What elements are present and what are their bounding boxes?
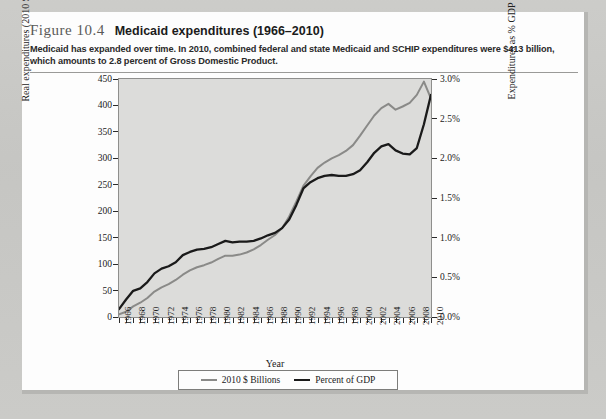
x-axis-tick-label: 2000 bbox=[364, 307, 374, 325]
x-axis-tick bbox=[218, 318, 219, 323]
y-axis-left-tick-label: 0 bbox=[66, 312, 112, 322]
x-axis-tick bbox=[147, 318, 148, 323]
x-axis-tick bbox=[374, 318, 375, 323]
x-axis-tick-label: 1978 bbox=[208, 307, 218, 325]
legend-item-gdp: Percent of GDP bbox=[294, 375, 375, 385]
x-axis-tick-label: 1994 bbox=[322, 307, 332, 325]
y-axis-left-tick-label: 450 bbox=[66, 74, 112, 84]
x-axis-tick-label: 1972 bbox=[166, 307, 176, 325]
x-axis-tick-label: 1982 bbox=[236, 307, 246, 325]
x-axis-tick-label: 1998 bbox=[350, 307, 360, 325]
x-axis-tick bbox=[247, 318, 248, 323]
y-axis-right-tick-label: 1.0% bbox=[440, 233, 460, 243]
legend-label-billions: 2010 $ Billions bbox=[222, 375, 281, 385]
x-axis-tick-label: 2002 bbox=[378, 307, 388, 325]
legend-swatch-gdp bbox=[294, 379, 310, 381]
y-axis-left-tick bbox=[113, 79, 118, 80]
y-axis-right-tick bbox=[432, 198, 437, 199]
y-axis-left-tick bbox=[113, 264, 118, 265]
plot-area bbox=[118, 78, 432, 318]
y-axis-left-tick-label: 200 bbox=[66, 206, 112, 216]
x-axis-tick-label: 1988 bbox=[279, 307, 289, 325]
figure-number: Figure 10.4 bbox=[30, 22, 105, 39]
x-axis-tick bbox=[289, 318, 290, 323]
x-axis-tick bbox=[403, 318, 404, 323]
figure-header: Figure 10.4 Medicaid expenditures (1966–… bbox=[30, 22, 578, 68]
y-axis-right-tick bbox=[432, 118, 437, 119]
x-axis-tick bbox=[318, 318, 319, 323]
legend-label-gdp: Percent of GDP bbox=[315, 375, 375, 385]
figure-description: Medicaid has expanded over time. In 2010… bbox=[30, 43, 578, 68]
y-axis-right-tick bbox=[432, 158, 437, 159]
series-line bbox=[119, 95, 431, 309]
y-axis-right-tick-label: 2.0% bbox=[440, 153, 460, 163]
chart-legend: 2010 $ Billions Percent of GDP bbox=[178, 370, 398, 390]
y-axis-right-tick bbox=[432, 79, 437, 80]
y-axis-left-tick-label: 300 bbox=[66, 153, 112, 163]
y-axis-left-tick bbox=[113, 317, 118, 318]
x-axis-tick-label: 1968 bbox=[137, 307, 147, 325]
y-axis-left-tick bbox=[113, 131, 118, 132]
y-axis-left-tick bbox=[113, 290, 118, 291]
x-axis-tick bbox=[431, 318, 432, 323]
x-axis-tick-label: 1974 bbox=[180, 307, 190, 325]
x-axis-title: Year bbox=[118, 358, 432, 369]
x-axis-tick bbox=[133, 318, 134, 323]
y-axis-left-tick-label: 100 bbox=[66, 259, 112, 269]
x-axis-tick-label: 1984 bbox=[251, 307, 261, 325]
y-axis-right-title: Expenditures as % GDP bbox=[506, 0, 517, 126]
x-axis-tick-label: 1986 bbox=[265, 307, 275, 325]
x-axis-tick-label: 1980 bbox=[222, 307, 232, 325]
x-axis-tick-label: 1970 bbox=[151, 307, 161, 325]
x-axis-tick-label: 1976 bbox=[194, 307, 204, 325]
y-axis-left-title: Real expenditures (2010 $ billions) bbox=[20, 0, 31, 116]
x-axis-tick bbox=[275, 318, 276, 323]
x-axis-tick bbox=[233, 318, 234, 323]
y-axis-left-tick bbox=[113, 184, 118, 185]
y-axis-right-tick-label: 0.5% bbox=[440, 272, 460, 282]
x-axis-tick bbox=[190, 318, 191, 323]
y-axis-right-tick-label: 2.5% bbox=[440, 114, 460, 124]
x-axis-tick-label: 1966 bbox=[123, 307, 133, 325]
y-axis-left-tick bbox=[113, 105, 118, 106]
y-axis-left-tick-label: 400 bbox=[66, 100, 112, 110]
x-axis-tick bbox=[346, 318, 347, 323]
y-axis-left-tick-label: 350 bbox=[66, 127, 112, 137]
x-axis-tick-label: 2006 bbox=[407, 307, 417, 325]
y-axis-left-tick-label: 150 bbox=[66, 233, 112, 243]
chart: Real expenditures (2010 $ billions) Expe… bbox=[30, 74, 578, 380]
legend-swatch-billions bbox=[201, 379, 217, 381]
y-axis-left-tick-label: 250 bbox=[66, 180, 112, 190]
x-axis-tick bbox=[119, 318, 120, 323]
x-axis-tick-label: 2008 bbox=[421, 307, 431, 325]
y-axis-right-tick-label: 3.0% bbox=[440, 74, 460, 84]
x-axis-tick bbox=[360, 318, 361, 323]
legend-item-billions: 2010 $ Billions bbox=[201, 375, 281, 385]
figure-title: Medicaid expenditures (1966–2010) bbox=[115, 24, 324, 38]
y-axis-right-tick-label: 1.5% bbox=[440, 193, 460, 203]
figure-page: Figure 10.4 Medicaid expenditures (1966–… bbox=[0, 0, 606, 419]
plot-lines bbox=[119, 79, 431, 317]
x-axis-tick bbox=[389, 318, 390, 323]
y-axis-left-tick-label: 50 bbox=[66, 286, 112, 296]
y-axis-left-tick bbox=[113, 237, 118, 238]
x-axis-tick-label: 1992 bbox=[307, 307, 317, 325]
y-axis-right-tick bbox=[432, 277, 437, 278]
series-line bbox=[119, 82, 431, 315]
x-axis-tick bbox=[204, 318, 205, 323]
x-axis-tick-label: 1990 bbox=[293, 307, 303, 325]
x-axis-tick bbox=[303, 318, 304, 323]
y-axis-left-tick bbox=[113, 158, 118, 159]
x-axis-tick-label: 2004 bbox=[392, 307, 402, 325]
y-axis-right-tick bbox=[432, 237, 437, 238]
y-axis-left-tick bbox=[113, 211, 118, 212]
x-axis-tick-label: 2010 bbox=[435, 307, 445, 325]
x-axis-tick-label: 1996 bbox=[336, 307, 346, 325]
x-axis-tick bbox=[162, 318, 163, 323]
